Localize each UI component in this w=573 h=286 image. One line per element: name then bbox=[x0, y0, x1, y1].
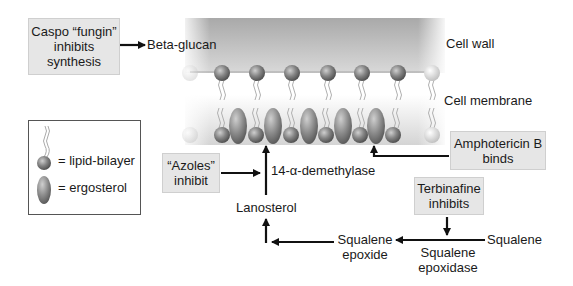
squalene-epoxidase-line1: Squalene bbox=[417, 245, 479, 260]
ergosterol-icon bbox=[37, 176, 51, 204]
amphotericin-line1: Amphotericin B bbox=[454, 136, 542, 151]
caspofungin-box: Caspo “fungin” inhibits synthesis bbox=[28, 18, 120, 75]
demethylase-label: 14-α-demethylase bbox=[271, 163, 375, 178]
cell-wall-band bbox=[180, 18, 448, 73]
caspofungin-line3: synthesis bbox=[47, 54, 101, 69]
amphotericin-line2: binds bbox=[482, 151, 513, 166]
terbinafine-line2: inhibits bbox=[429, 196, 469, 211]
squalene-label: Squalene bbox=[487, 232, 542, 247]
cell-wall-label: Cell wall bbox=[446, 36, 494, 51]
squalene-epoxide-line1: Squalene bbox=[336, 232, 394, 247]
squalene-epoxide-line2: epoxide bbox=[336, 247, 394, 262]
squalene-epoxide-label: Squalene epoxide bbox=[336, 232, 394, 262]
lanosterol-label: Lanosterol bbox=[236, 200, 297, 215]
squalene-epoxidase-label: Squalene epoxidase bbox=[417, 245, 479, 275]
caspofungin-line1: Caspo “fungin” bbox=[31, 24, 116, 39]
legend-icons bbox=[34, 124, 56, 212]
legend-ergosterol-label: = ergosterol bbox=[58, 180, 127, 195]
arrow-amphotericin-to-ergosterol bbox=[374, 146, 449, 156]
caspofungin-line2: inhibits bbox=[54, 39, 94, 54]
cell-membrane-label: Cell membrane bbox=[444, 93, 532, 108]
azoles-line2: inhibit bbox=[174, 173, 208, 188]
squalene-epoxidase-line2: epoxidase bbox=[417, 260, 479, 275]
lipid-head-icon bbox=[37, 156, 51, 170]
azoles-line1: “Azoles” bbox=[167, 158, 215, 173]
terbinafine-line1: Terbinafine bbox=[417, 181, 481, 196]
amphotericin-box: Amphotericin B binds bbox=[450, 131, 546, 170]
terbinafine-box: Terbinafine inhibits bbox=[414, 177, 484, 215]
legend-lipid-label: = lipid-bilayer bbox=[58, 153, 135, 168]
beta-glucan-label: Beta-glucan bbox=[147, 37, 216, 52]
legend-box: = lipid-bilayer = ergosterol bbox=[28, 120, 141, 215]
azoles-box: “Azoles” inhibit bbox=[162, 153, 220, 193]
